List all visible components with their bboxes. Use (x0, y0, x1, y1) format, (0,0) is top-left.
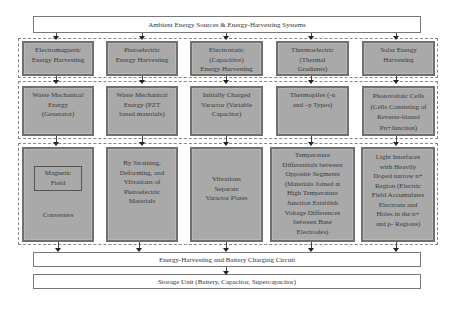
cell-text: Solar Energy (380, 46, 417, 56)
cell-electrostatic-harvesting: Electrostatic (Capacitive) Energy Harves… (190, 41, 263, 76)
cell-text: Differentials between (282, 161, 342, 171)
cell-text: Capacitor) (212, 110, 242, 120)
cell-text: High Temperature (287, 189, 338, 199)
cell-text: (Thermal (299, 56, 325, 66)
cell-text: Energy Harvesting (116, 56, 169, 66)
cell-text: Separate (214, 185, 238, 195)
title-box: Ambient Energy Sources & Energy-Harvesti… (33, 16, 421, 33)
cell-magnetic-converters: Magnetic Field Converters (22, 147, 94, 242)
cell-text: and p- Regions) (376, 220, 421, 230)
storage-unit-label: Storage Unit (Battery, Capacitor, Superc… (158, 278, 296, 286)
cell-light-interfaces: Light Interfaces with Heavily Doped narr… (361, 147, 435, 242)
cell-text: Energy Harvesting (200, 65, 253, 75)
cell-text: Pn+Junction) (380, 123, 417, 134)
cell-text: Region (Electric (375, 182, 421, 192)
cell-text: Field Accumulates (372, 191, 424, 201)
cell-text: Energy Harvesting (32, 56, 85, 66)
cell-text: Vibrations (212, 175, 241, 185)
cell-piezo-straining: By Straining, Deforming, and Vibrations … (106, 147, 178, 242)
cell-text: Piezoelectric (124, 188, 160, 198)
cell-text: Energy (48, 101, 68, 111)
cell-thermoelectric-harvesting: Thermoelectric (Thermal Gradients) (276, 41, 349, 76)
cell-text: with Heavily (380, 163, 416, 173)
cell-text: Varactor Plates (205, 194, 247, 204)
cell-temperature-differentials: Temperature Differentials between Opposi… (270, 147, 355, 242)
cell-text: (Materials Joined at (285, 180, 341, 190)
cell-charged-varactor: Initially Charged Varactor (Variable Cap… (190, 86, 263, 136)
cell-text: Gradients) (298, 65, 328, 75)
cell-waste-mechanical-generator: Waste Mechanical Energy (Generator) (22, 86, 94, 136)
cell-text: Temperature (295, 151, 330, 161)
cell-electromagnetic-harvesting: Electromagnetic Energy Harvesting (22, 41, 94, 76)
cell-text: Vibrations of (124, 178, 161, 188)
cell-text: Electrodes) (297, 228, 329, 238)
cell-text: Electrons and (379, 201, 417, 211)
cell-text: Deforming, and (120, 169, 164, 179)
cell-text: Doped narrow n+ (373, 172, 422, 182)
cell-text: Reverse-biased (377, 112, 420, 123)
cell-text: Thermopiles (-n (290, 91, 335, 101)
cell-text: Varactor (Variable (201, 101, 252, 111)
magnetic-field-box: Magnetic Field (34, 166, 82, 191)
cell-text: Harvesting (383, 56, 414, 66)
cell-text: Initially Charged (203, 91, 251, 101)
cell-text: Voltage Differences (285, 209, 341, 219)
cell-text: Magnetic (35, 169, 81, 179)
cell-photovoltaic: Photovoltaic Cells (Cells Consisting of … (362, 86, 435, 136)
cell-text: Field (35, 179, 81, 189)
cell-text: Photovoltaic Cells (373, 91, 425, 102)
cell-text: Holes in the n+ (376, 210, 419, 220)
charging-circuit-box: Energy-Harvesting and Battery Charging C… (33, 252, 421, 267)
converters-label: Converters (43, 211, 74, 221)
cell-text: Energy (PZT (124, 101, 161, 111)
cell-text: Electromagnetic (35, 46, 81, 56)
cell-thermopiles: Thermopiles (-n and –p Types) (276, 86, 349, 136)
cell-text: between Base (293, 218, 332, 228)
cell-text: (Capacitive) (209, 56, 244, 66)
cell-text: Opposite Segments (285, 170, 339, 180)
cell-piezoelectric-harvesting: Piezoelectric Energy Harvesting (106, 41, 178, 76)
cell-waste-mechanical-pzt: Waste Mechanical Energy (PZT based mater… (106, 86, 178, 136)
cell-text: Junction Establish (287, 199, 338, 209)
title-label: Ambient Energy Sources & Energy-Harvesti… (148, 21, 305, 29)
cell-text: Piezoelectric (124, 46, 160, 56)
cell-varactor-vibrations: Vibrations Separate Varactor Plates (190, 147, 263, 242)
cell-text: based materials) (119, 110, 165, 120)
cell-text: Thermoelectric (291, 46, 334, 56)
cell-text: Light Interfaces (376, 153, 421, 163)
cell-text: and –p Types) (293, 101, 332, 111)
cell-text: By Straining, (123, 159, 160, 169)
cell-text: (Cells Consisting of (370, 102, 426, 113)
cell-solar-harvesting: Solar Energy Harvesting (362, 41, 435, 76)
charging-circuit-label: Energy-Harvesting and Battery Charging C… (159, 256, 295, 264)
cell-text: Waste Mechanical (32, 91, 83, 101)
cell-text: Materials (129, 197, 155, 207)
cell-text: Electrostatic (209, 46, 244, 56)
cell-text: (Generator) (42, 110, 75, 120)
cell-text: Waste Mechanical (116, 91, 167, 101)
storage-unit-box: Storage Unit (Battery, Capacitor, Superc… (33, 274, 421, 289)
